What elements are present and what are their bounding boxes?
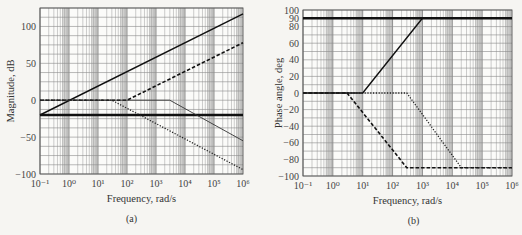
x-tick-label: 10⁵	[207, 178, 221, 189]
x-tick-label: 10³	[150, 178, 163, 189]
x-tick-label: 10¹	[356, 180, 369, 191]
x-tick-label: 10⁵	[475, 180, 489, 191]
y-axis-label: Phase angle, deg	[273, 57, 284, 128]
x-tick-label: 10⁰	[326, 180, 340, 191]
y-tick-label: 20	[289, 71, 299, 82]
y-tick-label: 80	[289, 21, 299, 32]
y-tick-label: 60	[289, 38, 299, 49]
y-tick-label: −60	[283, 137, 299, 148]
y-tick-label: −20	[283, 104, 299, 115]
x-tick-label: 10¹	[92, 178, 105, 189]
y-axis-label: Magnitude, dB	[5, 60, 16, 123]
bode-figure: 100500−50−10010⁻¹10⁰10¹10²10³10⁴10⁵10⁶Fr…	[0, 0, 522, 235]
y-tick-label: 0	[294, 88, 299, 99]
y-tick-label: −40	[283, 121, 299, 132]
y-tick-label: 0	[31, 95, 36, 106]
phase-plot: 10090806040200−20−40−60−80−10010⁻¹10⁰10¹…	[273, 5, 519, 228]
y-tick-label: 40	[289, 54, 299, 65]
magnitude-plot: 100500−50−10010⁻¹10⁰10¹10²10³10⁴10⁵10⁶Fr…	[5, 8, 250, 225]
x-tick-label: 10²	[386, 180, 399, 191]
x-tick-label: 10⁰	[62, 178, 76, 189]
x-tick-label: 10⁴	[446, 180, 460, 191]
x-tick-label: 10⁻¹	[31, 178, 49, 189]
x-tick-labels: 10⁻¹10⁰10¹10²10³10⁴10⁵10⁶	[31, 178, 250, 189]
panel-label: (a)	[126, 213, 137, 225]
x-tick-labels: 10⁻¹10⁰10¹10²10³10⁴10⁵10⁶	[294, 180, 519, 191]
y-tick-labels: 100500−50−100	[15, 21, 36, 180]
x-tick-label: 10⁻¹	[294, 180, 312, 191]
y-tick-label: −80	[283, 154, 299, 165]
y-tick-label: −50	[20, 132, 36, 143]
panel-label: (b)	[408, 215, 420, 227]
x-axis-label: Frequency, rad/s	[373, 195, 442, 206]
y-tick-label: 100	[21, 21, 36, 32]
y-tick-label: 50	[26, 58, 36, 69]
x-tick-label: 10³	[416, 180, 429, 191]
x-tick-label: 10²	[121, 178, 134, 189]
x-tick-label: 10⁶	[236, 178, 250, 189]
x-axis-label: Frequency, rad/s	[107, 193, 176, 204]
x-tick-label: 10⁴	[178, 178, 192, 189]
x-tick-label: 10⁶	[505, 180, 519, 191]
